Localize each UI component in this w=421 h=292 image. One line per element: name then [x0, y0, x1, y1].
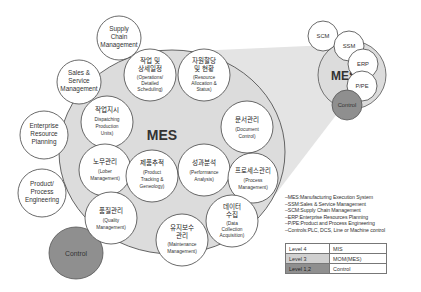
svg-text:Production: Production [96, 124, 119, 129]
svg-text:(Operations/: (Operations/ [137, 75, 164, 80]
outer-circle-erp: Enterprise Resource Planning [20, 111, 68, 159]
svg-text:제품추적: 제품추적 [140, 159, 164, 167]
svg-text:Acquisition): Acquisition) [220, 233, 245, 238]
svg-text:SSM: SSM [343, 43, 356, 49]
svg-text:Product/: Product/ [30, 180, 54, 187]
inner-circle-operations-scheduling: 작업 및 상세일정 (Operations/ Detailed Scheduli… [124, 49, 176, 101]
svg-text:데이터: 데이터 [223, 202, 241, 211]
svg-text:Sales &: Sales & [68, 69, 91, 76]
svg-text:및 현황: 및 현황 [194, 64, 214, 73]
svg-text:Allocation &: Allocation & [191, 81, 217, 86]
levels-row: Level 3 MOM(MES) [286, 254, 387, 264]
svg-text:Management): Management) [167, 249, 197, 254]
svg-text:Resource: Resource [30, 130, 58, 137]
svg-text:(Process: (Process [244, 178, 264, 183]
svg-text:Control): Control) [238, 134, 255, 139]
svg-text:Geneology): Geneology) [140, 184, 165, 189]
svg-text:(Performance: (Performance [189, 170, 218, 175]
svg-text:Supply: Supply [109, 25, 129, 33]
svg-text:(Product: (Product [143, 170, 162, 175]
svg-text:Process: Process [30, 188, 53, 195]
abbreviation-legend: –MES:Manufacturing Execution System –SSM… [285, 194, 385, 234]
inner-circle-data-collection: 데이터 수집 (Data Collection Acquisition) [206, 195, 258, 247]
svg-text:(Document: (Document [235, 127, 259, 132]
svg-text:(Data: (Data [226, 221, 238, 226]
svg-text:Collection: Collection [221, 227, 242, 232]
svg-text:Management): Management) [96, 225, 126, 230]
mes-main-label: MES [147, 127, 177, 143]
svg-text:Scheduling): Scheduling) [137, 87, 163, 92]
legend-item-erp: –ERP:Enterprise Resources Planning [285, 214, 385, 221]
legend-item-scm: –SCM:Supply Chain Management [285, 207, 385, 214]
svg-text:성과분석: 성과분석 [192, 158, 216, 167]
svg-text:P/PE: P/PE [355, 83, 368, 89]
svg-text:(Quality: (Quality [103, 218, 120, 223]
outer-circle-sales-service: Sales & Service Management [57, 60, 101, 104]
svg-text:Service: Service [68, 77, 90, 84]
svg-text:SCM: SCM [317, 33, 330, 39]
levels-row: Level 1,2 Control [286, 264, 387, 274]
svg-text:Units): Units) [101, 131, 114, 136]
svg-text:Planning: Planning [32, 138, 57, 146]
level-label: Level 3 [286, 254, 330, 264]
svg-text:Detailed: Detailed [141, 81, 159, 86]
svg-text:작업지시: 작업지시 [95, 105, 119, 114]
inner-circle-maintenance-management: 유지보수 관리 (Maintenance Management) [156, 214, 208, 266]
mini-circle-scm: SCM [308, 21, 338, 51]
svg-text:Management): Management) [238, 185, 268, 190]
svg-text:Status): Status) [196, 87, 212, 92]
svg-text:프로세스관리: 프로세스관리 [235, 166, 271, 175]
svg-text:상세일정: 상세일정 [138, 64, 162, 73]
levels-table: Level 4 MIS Level 3 MOM(MES) Level 1,2 C… [285, 243, 387, 274]
svg-text:수집: 수집 [226, 211, 238, 219]
level-system: Control [330, 264, 387, 274]
svg-text:Enterprise: Enterprise [29, 122, 59, 130]
inner-circle-document-control: 문서관리 (Document Control) [221, 101, 273, 153]
svg-text:(Maintenance: (Maintenance [167, 242, 196, 247]
svg-text:품질관리: 품질관리 [99, 206, 123, 215]
svg-text:Analysis): Analysis) [194, 177, 214, 182]
svg-text:문서관리: 문서관리 [235, 115, 259, 124]
inner-circle-quality-management: 품질관리 (Quality Management) [85, 192, 137, 244]
svg-text:관리: 관리 [176, 231, 188, 240]
level-label: Level 4 [286, 244, 330, 254]
svg-text:(Lober: (Lober [98, 169, 112, 174]
svg-text:작업 및: 작업 및 [140, 56, 160, 65]
svg-text:(Resource: (Resource [193, 75, 215, 80]
outer-circle-supply-chain: Supply Chain Management [97, 16, 141, 60]
inner-circle-product-tracking: 제품추적 (Product Tracking & Geneology) [126, 150, 178, 202]
legend-item-ssm: –SSM:Sales & Service Management [285, 201, 385, 208]
svg-text:Tracking &: Tracking & [141, 177, 165, 182]
svg-text:노무관리: 노무관리 [93, 157, 117, 166]
svg-text:Control: Control [338, 102, 357, 108]
level-system: MIS [330, 244, 387, 254]
svg-text:Management: Management [60, 85, 98, 93]
level-system: MOM(MES) [330, 254, 387, 264]
legend-item-ppe: –P/PE:Product and Process Engineering [285, 220, 385, 227]
svg-text:Chain: Chain [111, 33, 128, 40]
mini-circle-control: Control [332, 90, 362, 120]
svg-text:자원할당: 자원할당 [192, 56, 216, 65]
svg-text:Management: Management [100, 41, 138, 49]
svg-text:Engineering: Engineering [25, 196, 60, 204]
svg-text:Management): Management) [90, 176, 120, 181]
legend-item-mes: –MES:Manufacturing Execution System [285, 194, 385, 201]
level-label: Level 1,2 [286, 264, 330, 274]
svg-text:Dispatching: Dispatching [94, 117, 119, 122]
svg-text:Control: Control [65, 250, 87, 257]
inner-circle-performance-analysis: 성과분석 (Performance Analysis) [178, 144, 230, 196]
levels-row: Level 4 MIS [286, 244, 387, 254]
svg-text:유지보수: 유지보수 [170, 223, 194, 232]
inner-circle-labor-management: 노무관리 (Lober Management) [79, 144, 131, 196]
legend-item-controls: –Controls:PLC, DCS, Line or Machine cont… [285, 227, 385, 234]
inner-circle-dispatching: 작업지시 Dispatching Production Units) [81, 96, 133, 148]
svg-text:ERP: ERP [357, 61, 369, 67]
outer-circle-product-process: Product/ Process Engineering [18, 169, 66, 217]
inner-circle-resource-allocation: 자원할당 및 현황 (Resource Allocation & Status) [178, 49, 230, 101]
